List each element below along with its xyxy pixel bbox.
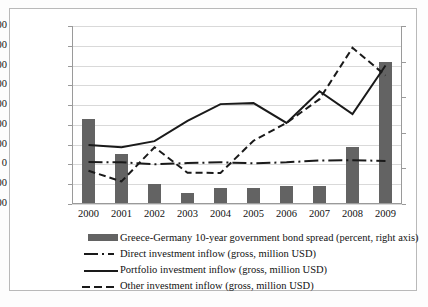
x-axis-tick-label: 2007 (309, 208, 330, 219)
y-axis-right-tickmark (402, 133, 406, 134)
y-axis-left-tick-label: 10000 (0, 138, 7, 149)
plot-area: -20000-100000100002000030000400005000060… (72, 26, 402, 204)
y-axis-left-line (72, 26, 73, 204)
y-axis-left-tick-label: -10000 (0, 177, 7, 188)
y-axis-left-tick-label: 60000 (0, 39, 7, 50)
dash-dot-line-icon (80, 248, 118, 259)
y-axis-left-tick-label: -20000 (0, 197, 7, 208)
legend-item-other-investment: Other investment inflow (gross, million … (80, 279, 420, 293)
chart-legend: Greece-Germany 10-year government bond s… (80, 231, 420, 296)
x-axis-tick-label: 2001 (111, 208, 132, 219)
solid-line-icon (80, 265, 118, 276)
x-axis-tick-label: 2008 (342, 208, 363, 219)
y-axis-left-tick-label: 20000 (0, 118, 7, 129)
legend-item-bond-spread: Greece-Germany 10-year government bond s… (80, 231, 420, 245)
y-axis-left-tick-label: 30000 (0, 98, 7, 109)
gridline (72, 204, 402, 205)
line-portfolio-investment (89, 66, 386, 148)
x-axis-line (72, 203, 402, 204)
chart-frame: -20000-100000100002000030000400005000060… (9, 8, 417, 291)
legend-label-other-investment: Other investment inflow (gross, million … (120, 279, 314, 293)
y-axis-left-tick-label: 40000 (0, 78, 7, 89)
y-axis-left-tick-label: 50000 (0, 59, 7, 70)
x-axis-tick-label: 2006 (276, 208, 297, 219)
legend-label-portfolio-investment: Portfolio investment inflow (gross, mill… (120, 263, 327, 277)
legend-label-bond-spread: Greece-Germany 10-year government bond s… (120, 231, 419, 245)
legend-item-portfolio-investment: Portfolio investment inflow (gross, mill… (80, 263, 420, 277)
y-axis-right-line (401, 26, 402, 204)
y-axis-right-tickmark (402, 97, 406, 98)
y-axis-right-tickmark (402, 26, 406, 27)
x-axis-tick-label: 2000 (78, 208, 99, 219)
x-axis-tick-label: 2009 (375, 208, 396, 219)
bar-swatch-icon (80, 232, 118, 243)
chart-figure: -20000-100000100002000030000400005000060… (0, 0, 428, 307)
x-axis-tick-label: 2003 (177, 208, 198, 219)
y-axis-right-tickmark (402, 168, 406, 169)
y-axis-right-tickmark (402, 62, 406, 63)
legend-label-direct-investment: Direct investment inflow (gross, million… (120, 247, 316, 261)
legend-item-direct-investment: Direct investment inflow (gross, million… (80, 247, 420, 261)
y-axis-left-tick-label: 0 (0, 157, 7, 168)
line-direct-investment (89, 160, 386, 164)
y-axis-right-tickmark (402, 204, 406, 205)
line-other-investment (89, 48, 386, 182)
y-axis-left-tick-label: 70000 (0, 19, 7, 30)
y-axis-left-tickmark (68, 204, 72, 205)
line-series-layer (72, 26, 402, 204)
dashed-line-icon (80, 281, 118, 292)
x-axis-tick-label: 2004 (210, 208, 231, 219)
x-axis-tick-label: 2002 (144, 208, 165, 219)
x-axis-tick-label: 2005 (243, 208, 264, 219)
